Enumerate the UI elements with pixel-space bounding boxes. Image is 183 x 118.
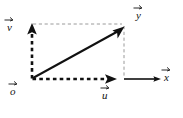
vector-arrow-icon: [5, 16, 14, 21]
vector-arrow-icon: [162, 66, 171, 71]
label-basis-horizontal-text: u: [102, 89, 108, 101]
vector-u-arrowhead: [105, 74, 117, 84]
label-basis-vertical: v: [7, 22, 12, 33]
label-axis-y: y: [136, 10, 141, 21]
label-axis-x-text: x: [164, 71, 169, 83]
label-origin: o: [10, 86, 16, 97]
label-basis-horizontal: u: [102, 90, 108, 101]
vector-diagram-figure: v o u x: [0, 0, 183, 118]
vector-arrow-icon: [100, 84, 109, 89]
vector-arrow-icon: [8, 80, 17, 85]
label-axis-y-text: y: [136, 9, 141, 21]
vector-diagram-canvas: [0, 0, 183, 118]
vector-arrow-icon: [134, 4, 143, 9]
label-basis-vertical-text: v: [7, 21, 12, 33]
label-axis-x: x: [164, 72, 169, 83]
vector-v-arrowhead: [27, 23, 37, 35]
label-origin-text: o: [10, 85, 16, 97]
vector-resultant-shaft: [33, 32, 118, 79]
